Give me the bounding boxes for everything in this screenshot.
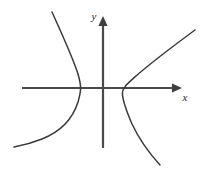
hyperbola-left-branch [14, 12, 81, 147]
x-axis-label: x [182, 91, 188, 103]
x-axis-arrow-icon [172, 83, 182, 92]
y-axis-arrow-icon [98, 16, 107, 26]
hyperbola-figure: x y [0, 0, 202, 169]
y-axis-label: y [91, 10, 97, 22]
